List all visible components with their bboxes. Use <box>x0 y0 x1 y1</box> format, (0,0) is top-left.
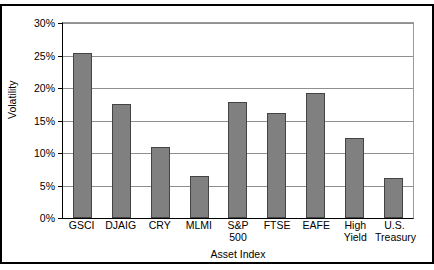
y-axis-tick <box>58 218 63 219</box>
y-axis-tick-label: 15% <box>34 115 55 127</box>
frame-left-border <box>0 4 2 264</box>
y-axis-tick-label: 30% <box>34 17 55 29</box>
bar-slot <box>296 23 335 218</box>
bar-slot <box>257 23 296 218</box>
x-axis-tick-label: FTSE <box>258 220 297 243</box>
bar <box>228 102 247 218</box>
bar <box>112 104 131 218</box>
bar <box>384 178 403 218</box>
bars-group <box>63 23 413 218</box>
bar-slot <box>63 23 102 218</box>
bar-slot <box>102 23 141 218</box>
bar <box>267 113 286 218</box>
bar <box>73 53 92 218</box>
y-axis-tick-label: 10% <box>34 147 55 159</box>
x-axis-tick-label-line: 500 <box>219 232 258 244</box>
bar <box>190 176 209 218</box>
frame-bottom-border <box>0 262 434 264</box>
bar <box>306 93 325 218</box>
bar-slot <box>141 23 180 218</box>
bar-slot <box>219 23 258 218</box>
bar-slot <box>374 23 413 218</box>
x-axis-tick-label: HighYield <box>336 220 375 243</box>
bar <box>345 138 364 218</box>
frame-top-border <box>0 4 434 6</box>
y-axis-tick-label: 20% <box>34 82 55 94</box>
x-axis-tick-label-line: DJAIG <box>101 220 140 232</box>
x-axis-tick-label: CRY <box>140 220 179 243</box>
x-axis-tick-label-line: Treasury <box>375 232 414 244</box>
x-axis-tick-label-line: High <box>336 220 375 232</box>
x-axis-tick-label-line: FTSE <box>258 220 297 232</box>
x-axis-tick-label: GSCI <box>62 220 101 243</box>
y-axis-tick-label: 5% <box>40 180 55 192</box>
y-axis-tick-label: 25% <box>34 50 55 62</box>
x-axis-tick-label-line: GSCI <box>62 220 101 232</box>
x-axis-tick-label-line: CRY <box>140 220 179 232</box>
bar-slot <box>335 23 374 218</box>
bar <box>151 147 170 218</box>
x-axis-tick-label: U.S.Treasury <box>375 220 414 243</box>
x-axis-title: Asset Index <box>62 248 414 260</box>
bar-slot <box>180 23 219 218</box>
x-axis-tick-label-line: U.S. <box>375 220 414 232</box>
x-axis-tick-labels: GSCIDJAIGCRYMLMIS&P500FTSEEAFEHighYieldU… <box>62 220 414 243</box>
y-axis-title: Volatility <box>6 80 18 119</box>
bar-chart-figure: Volatility 0%5%10%15%20%25%30% GSCIDJAIG… <box>0 0 434 270</box>
x-axis-tick-label: DJAIG <box>101 220 140 243</box>
x-axis-tick-label-line: MLMI <box>179 220 218 232</box>
x-axis-tick-label-line: EAFE <box>297 220 336 232</box>
x-axis-tick-label-line: S&P <box>219 220 258 232</box>
y-axis-tick-label: 0% <box>40 212 55 224</box>
x-axis-tick-label: S&P500 <box>219 220 258 243</box>
plot-area: 0%5%10%15%20%25%30% <box>62 22 414 219</box>
x-axis-tick-label: MLMI <box>179 220 218 243</box>
x-axis-tick-label: EAFE <box>297 220 336 243</box>
x-axis-tick-label-line: Yield <box>336 232 375 244</box>
